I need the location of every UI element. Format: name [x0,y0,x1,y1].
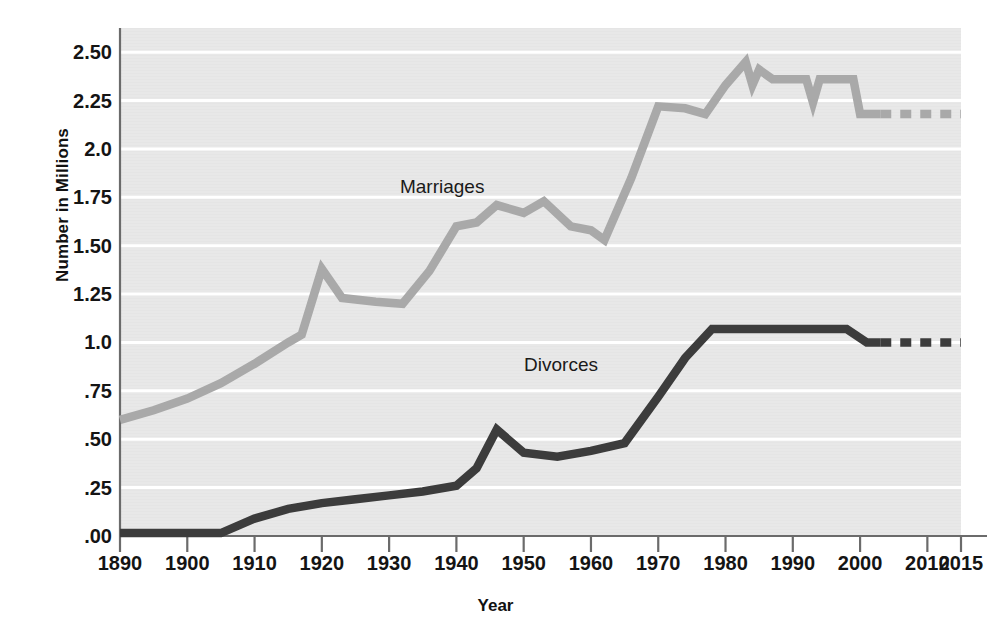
x-tick-label: 1970 [636,552,681,575]
x-axis-title: Year [0,596,991,616]
x-tick-label: 2000 [838,552,883,575]
x-axis-tick-labels: 1890190019101920193019401950196019701980… [0,0,991,631]
x-tick-label: 1900 [165,552,210,575]
x-tick-label: 1960 [569,552,614,575]
y-axis-title: Number in Millions [53,128,73,282]
x-tick-label: 1920 [300,552,345,575]
x-tick-label: 1940 [434,552,479,575]
x-tick-label: 1950 [501,552,546,575]
x-tick-label: 1980 [703,552,748,575]
x-tick-label: 1910 [232,552,277,575]
x-tick-label: 1890 [98,552,143,575]
series-label-marriages: Marriages [400,176,484,198]
x-tick-label: 2015 [939,552,984,575]
series-label-divorces: Divorces [524,354,598,376]
marriages-divorces-line-chart: .00.25.50.751.01.251.501.752.02.252.50 1… [0,0,991,631]
x-tick-label: 1990 [771,552,816,575]
x-tick-label: 1930 [367,552,412,575]
